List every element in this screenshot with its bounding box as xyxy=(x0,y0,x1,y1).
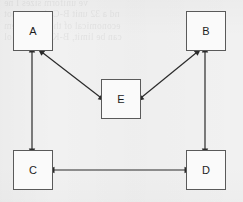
node-label-a: A xyxy=(29,26,36,37)
node-box-a[interactable]: A xyxy=(13,11,53,51)
node-box-e[interactable]: E xyxy=(101,79,141,119)
node-box-d[interactable]: D xyxy=(186,150,226,190)
node-label-e: E xyxy=(117,94,124,105)
node-box-c[interactable]: C xyxy=(13,150,53,190)
node-label-d: D xyxy=(202,165,210,176)
edge-b-e xyxy=(142,53,196,97)
node-box-b[interactable]: B xyxy=(186,11,226,51)
edge-a-e xyxy=(43,53,100,97)
node-label-b: B xyxy=(202,26,209,37)
diagram-canvas: ve uniform sizes I ne nd a 32 unit B-C-t… xyxy=(0,0,243,202)
node-label-c: C xyxy=(29,165,37,176)
